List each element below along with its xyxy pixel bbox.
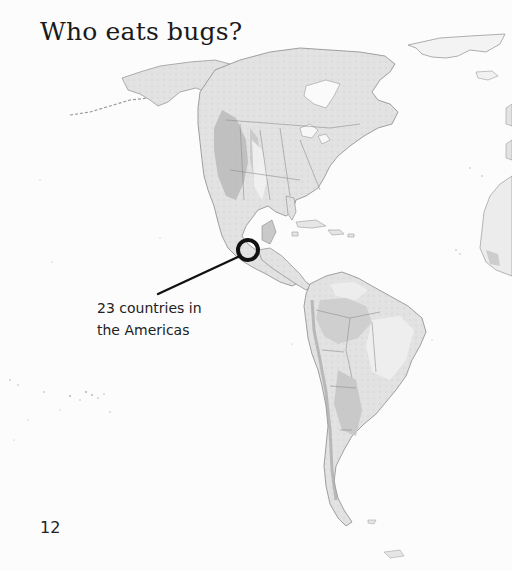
book-page: Who eats bugs? 23 countries in the Ameri… bbox=[0, 0, 512, 570]
page-number: 12 bbox=[40, 518, 60, 537]
callout-pointer-line bbox=[158, 256, 240, 294]
americas-map bbox=[0, 0, 512, 570]
page-title: Who eats bugs? bbox=[40, 17, 242, 46]
callout-line-1: 23 countries in bbox=[97, 297, 237, 319]
callout-line-2: the Americas bbox=[97, 319, 237, 341]
greenland-landmass bbox=[408, 34, 505, 58]
callout-label: 23 countries in the Americas bbox=[97, 297, 237, 341]
